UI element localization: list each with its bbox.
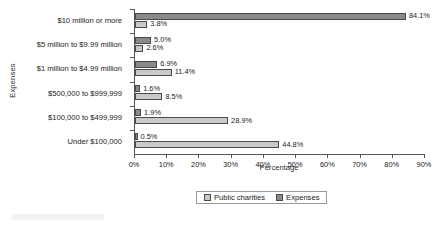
bar-value-label: 28.9% [231,117,252,125]
y-axis-line [134,9,135,154]
bar-expenses [135,61,157,68]
legend-swatch-expenses [276,194,283,201]
watermark-smudge [12,214,104,220]
x-axis-tick [198,154,199,158]
legend-item: Expenses [276,193,319,202]
y-axis-tick [130,130,134,131]
bar-expenses [135,13,406,20]
x-axis-tick [295,154,296,158]
y-axis-category-label: $500,000 to $999,999 [4,89,122,98]
y-axis-tick [130,106,134,107]
x-axis-tick [360,154,361,158]
y-axis-category-label: $100,000 to $499,999 [4,113,122,122]
legend-swatch-charities [204,194,211,201]
bar-value-label: 2.6% [146,44,163,52]
bar-expenses [135,133,138,140]
y-axis-category-label: $5 million to $9.99 million [4,40,122,49]
bar-expenses [135,109,141,116]
bar-public-charities [135,117,228,124]
y-axis-tick [130,82,134,83]
x-axis-title: Percentage [134,163,424,172]
bar-value-label: 11.4% [175,68,195,76]
x-axis-tick [392,154,393,158]
x-axis-tick [231,154,232,158]
y-axis-tick [130,33,134,34]
x-axis-tick [166,154,167,158]
x-axis-tick [327,154,328,158]
bar-public-charities [135,45,143,52]
bar-public-charities [135,93,162,100]
y-axis-category-label: $1 million to $4.99 million [4,64,122,73]
y-axis-category-label: Under $100,000 [4,137,122,146]
y-axis-tick [130,9,134,10]
bar-chart: Expenses $10 million or more$5 million t… [0,0,439,229]
x-axis-line [134,154,424,155]
bar-public-charities [135,141,279,148]
bar-public-charities [135,69,172,76]
bar-value-label: 1.9% [144,109,161,117]
x-axis-tick [134,154,135,158]
bar-value-label: 84.1% [409,12,430,20]
bar-value-label: 8.5% [165,93,182,101]
y-axis-category-labels: $10 million or more$5 million to $9.99 m… [8,9,128,154]
bar-value-label: 3.8% [150,20,167,28]
legend-label: Expenses [286,193,319,202]
bar-value-label: 1.6% [143,85,160,93]
chart-legend: Public charitiesExpenses [196,191,327,204]
y-axis-category-label: $10 million or more [4,16,122,25]
legend-item: Public charities [204,193,265,202]
x-axis-tick [263,154,264,158]
x-axis-tick [424,154,425,158]
bar-expenses [135,85,140,92]
y-axis-tick [130,57,134,58]
legend-label: Public charities [214,193,265,202]
bar-public-charities [135,21,147,28]
bar-value-label: 44.8% [282,141,303,149]
plot-area: 0%10%20%30%40%50%60%70%80%90%84.1%3.8%5.… [134,9,424,154]
bar-value-label: 0.5% [141,133,158,141]
